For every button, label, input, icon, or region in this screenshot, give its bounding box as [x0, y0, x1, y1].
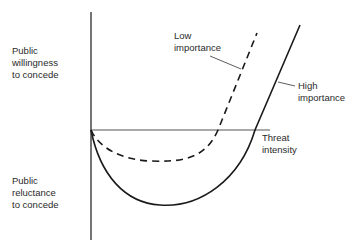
y-negative-label-line2: reluctance — [12, 187, 58, 199]
high-importance-label-line2: importance — [298, 92, 345, 104]
low-importance-label: Low importance — [174, 30, 221, 54]
x-axis-label: Threat intensity — [262, 132, 297, 156]
y-negative-label: Public reluctance to concede — [12, 175, 58, 211]
y-negative-label-line1: Public — [12, 175, 58, 187]
y-positive-label: Public willingness to concede — [12, 45, 58, 81]
high-importance-label: High importance — [298, 80, 345, 104]
high-importance-leader — [278, 82, 295, 86]
low-importance-label-line2: importance — [174, 42, 221, 54]
x-axis-label-line1: Threat — [262, 132, 297, 144]
y-positive-label-line1: Public — [12, 45, 58, 57]
y-negative-label-line3: to concede — [12, 199, 58, 211]
high-importance-label-line1: High — [298, 80, 345, 92]
y-positive-label-line2: willingness — [12, 57, 58, 69]
low-importance-label-line1: Low — [174, 30, 221, 42]
diagram-canvas: Public willingness to concede Public rel… — [0, 0, 354, 250]
x-axis-label-line2: intensity — [262, 144, 297, 156]
y-positive-label-line3: to concede — [12, 69, 58, 81]
low-importance-leader — [210, 56, 241, 69]
